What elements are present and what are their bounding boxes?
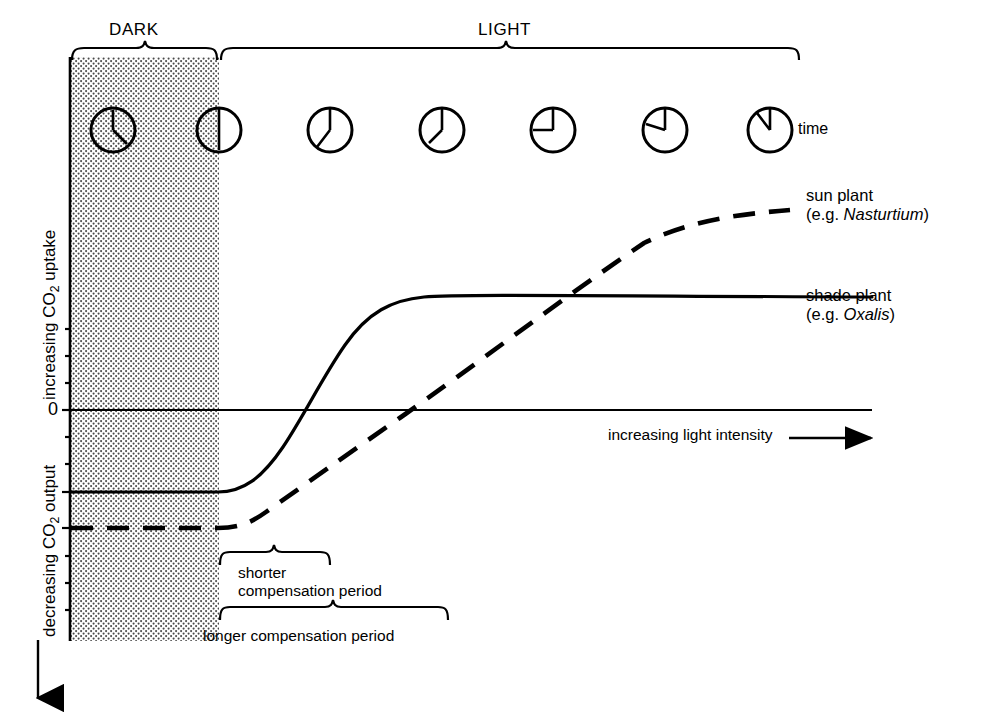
- sun-plant-suffix: ): [923, 205, 929, 223]
- shorter-period-line1: shorter: [238, 564, 382, 582]
- shorter-period-label: shorter compensation period: [238, 564, 382, 601]
- y-axis-upper-label: increasing CO2 uptake: [40, 230, 63, 400]
- y-axis-upper-text: increasing CO2 uptake: [40, 230, 59, 400]
- light-phase-label: LIGHT: [478, 20, 531, 40]
- longer-period-brace: [220, 600, 448, 620]
- clock-icon-6: [643, 108, 687, 152]
- shade-plant-prefix: (e.g.: [806, 305, 844, 323]
- sun-plant-prefix: (e.g.: [806, 205, 844, 223]
- light-intensity-label: increasing light intensity: [608, 426, 773, 444]
- shorter-period-line2: compensation period: [238, 582, 382, 600]
- longer-period-label: longer compensation period: [203, 627, 394, 645]
- clock-icon-3: [308, 108, 352, 152]
- clock-icon-5: [531, 108, 575, 152]
- sun-plant-label-line2: (e.g. Nasturtium): [806, 205, 929, 224]
- time-label: time: [798, 120, 828, 139]
- y-axis-lower-label: decreasing CO2 output: [40, 465, 63, 637]
- sun-plant-genus: Nasturtium: [844, 205, 924, 223]
- shade-plant-label-line1: shade plant: [806, 286, 895, 305]
- shade-plant-genus: Oxalis: [844, 305, 890, 323]
- y-axis-lower-text: decreasing CO2 output: [40, 465, 59, 637]
- shorter-period-brace: [220, 545, 330, 565]
- clock-icon-7: [748, 108, 792, 152]
- clock-icon-4: [420, 108, 464, 152]
- dark-phase-label: DARK: [109, 20, 159, 40]
- dark-region-shading: [70, 57, 219, 641]
- figure-canvas: DARK LIGHT time 0 increasing CO2 uptake …: [0, 0, 988, 723]
- shade-plant-label: shade plant (e.g. Oxalis): [806, 286, 895, 325]
- shade-plant-suffix: ): [889, 305, 895, 323]
- sun-plant-label-line1: sun plant: [806, 186, 929, 205]
- sun-plant-label: sun plant (e.g. Nasturtium): [806, 186, 929, 225]
- diagram-graphics: [0, 0, 988, 723]
- shade-plant-label-line2: (e.g. Oxalis): [806, 305, 895, 324]
- light-brace: [221, 41, 799, 60]
- zero-tick-label: 0: [48, 399, 58, 420]
